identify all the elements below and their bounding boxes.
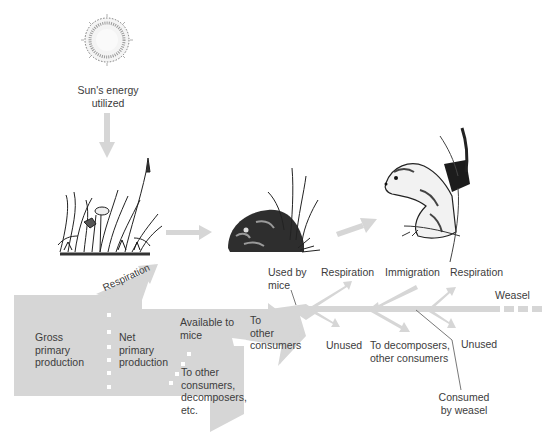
immigration-label: Immigration <box>385 266 440 279</box>
mouse-icon <box>228 168 320 252</box>
plants-to-mouse-arrow <box>166 225 212 240</box>
energy-flow-diagram: Sun's energy utilized Gross primary prod… <box>0 0 558 432</box>
available-to-mice-label: Available to mice <box>180 316 234 341</box>
used-by-mice-label: Used by mice <box>268 266 307 291</box>
respiration-mice-label: Respiration <box>321 266 374 279</box>
weasel-icon <box>385 128 471 262</box>
consumed-by-weasel-label: Consumed by weasel <box>436 391 492 416</box>
unused-weasel-label: Unused <box>461 338 497 351</box>
weasel-label: Weasel <box>495 289 530 302</box>
grass-plants-icon <box>58 158 162 254</box>
sun-to-plants-arrow <box>99 113 115 158</box>
mouse-energy-flow <box>300 281 490 332</box>
sun-icon <box>81 14 133 66</box>
unused-mice-label: Unused <box>326 339 362 352</box>
sun-energy-label: Sun's energy utilized <box>72 84 144 109</box>
to-other-consumers-label: To other consumers <box>250 314 301 352</box>
mouse-to-weasel-arrow <box>336 218 377 237</box>
to-other-consumers-decomposers-label: To other consumers, decomposers, etc. <box>181 366 247 416</box>
net-primary-production-label: Net primary production <box>119 331 168 369</box>
respiration-weasel-label: Respiration <box>450 266 503 279</box>
weasel-dashed-line <box>488 306 542 312</box>
to-decomposers-other-consumers-label: To decomposers, other consumers <box>370 339 450 364</box>
gross-primary-production-label: Gross primary production <box>35 331 84 369</box>
